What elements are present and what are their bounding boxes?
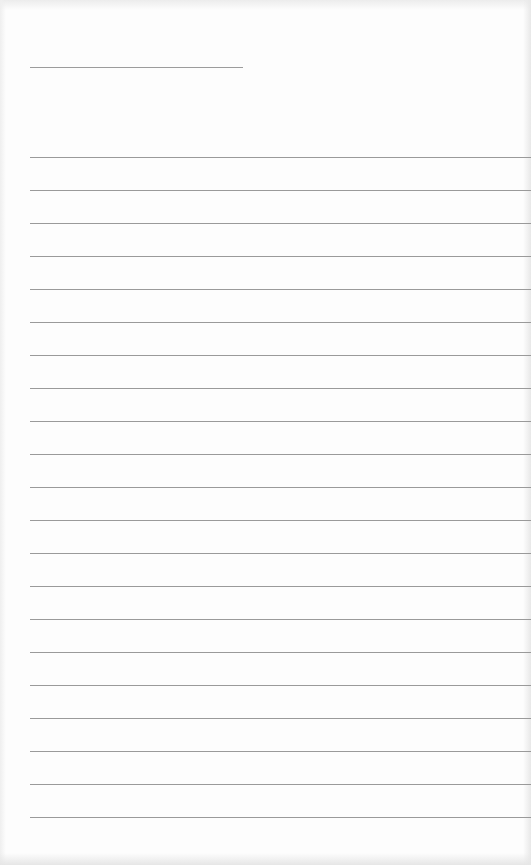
scan-edge-bottom xyxy=(0,853,531,865)
ruled-line xyxy=(30,685,531,718)
ruled-line xyxy=(30,619,531,652)
ruled-line xyxy=(30,817,531,850)
ruled-line xyxy=(30,652,531,685)
ruled-line xyxy=(30,784,531,817)
ruled-line xyxy=(30,322,531,355)
header-field-line xyxy=(30,67,243,68)
ruled-line xyxy=(30,553,531,586)
ruled-line xyxy=(30,421,531,454)
ruled-line xyxy=(30,718,531,751)
scan-edge-top xyxy=(0,0,531,10)
ruled-line xyxy=(30,751,531,784)
ruled-line xyxy=(30,454,531,487)
ruled-line xyxy=(30,223,531,256)
ruled-line xyxy=(30,355,531,388)
scan-edge-left xyxy=(0,0,6,865)
ruled-line xyxy=(30,487,531,520)
ruled-line xyxy=(30,190,531,223)
ruled-lines xyxy=(30,157,531,850)
paper-page xyxy=(0,0,531,865)
ruled-line xyxy=(30,520,531,553)
ruled-line xyxy=(30,256,531,289)
ruled-line xyxy=(30,289,531,322)
ruled-line xyxy=(30,157,531,190)
ruled-line xyxy=(30,388,531,421)
ruled-line xyxy=(30,586,531,619)
